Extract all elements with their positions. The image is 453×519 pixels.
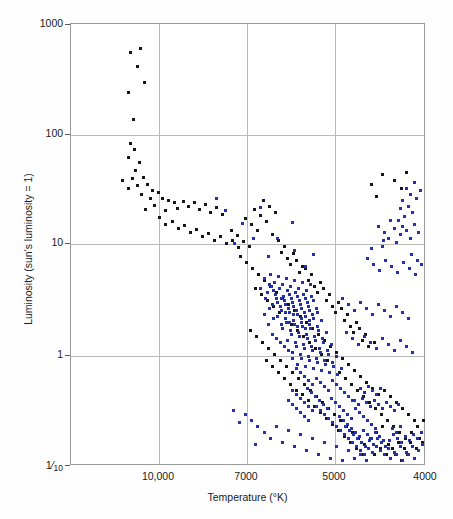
- data-point: [292, 319, 295, 322]
- data-point: [399, 207, 402, 210]
- data-point: [389, 315, 392, 318]
- data-point: [129, 51, 132, 54]
- data-point: [407, 317, 410, 320]
- data-point: [315, 377, 318, 380]
- data-point: [283, 299, 286, 302]
- data-point: [291, 357, 294, 360]
- data-point: [379, 449, 382, 452]
- y-tick-label: 1000: [0, 18, 66, 29]
- data-point: [167, 199, 170, 202]
- data-point: [298, 271, 301, 274]
- data-point: [368, 401, 371, 404]
- data-point: [379, 387, 382, 390]
- data-point: [402, 261, 405, 264]
- data-point: [286, 257, 289, 260]
- data-point: [396, 437, 399, 440]
- data-point: [407, 205, 410, 208]
- data-point: [343, 433, 346, 436]
- data-point: [415, 197, 418, 200]
- data-point: [291, 221, 294, 224]
- data-point: [308, 323, 311, 326]
- y-tick-label: 1⁄10: [0, 459, 66, 472]
- data-point: [398, 431, 401, 434]
- data-point: [291, 389, 294, 392]
- data-point: [313, 285, 316, 288]
- data-point: [127, 156, 130, 159]
- data-point: [380, 413, 383, 416]
- data-point: [399, 445, 402, 448]
- data-point: [225, 242, 228, 245]
- data-point: [353, 399, 356, 402]
- data-point: [421, 443, 424, 446]
- data-point: [409, 193, 412, 196]
- data-point: [221, 213, 224, 216]
- data-point: [365, 381, 368, 384]
- data-point: [346, 313, 349, 316]
- data-point: [315, 405, 318, 408]
- data-point: [304, 315, 307, 318]
- data-point: [387, 447, 390, 450]
- data-point: [312, 299, 315, 302]
- data-point: [316, 325, 319, 328]
- data-point: [275, 425, 278, 428]
- data-point: [408, 439, 411, 442]
- data-point: [287, 303, 290, 306]
- data-point: [307, 399, 310, 402]
- data-point: [296, 313, 299, 316]
- data-point: [335, 351, 338, 354]
- data-point: [366, 257, 369, 260]
- data-point: [276, 301, 279, 304]
- y-tick-mark: [65, 465, 70, 466]
- data-point: [257, 273, 260, 276]
- data-point: [395, 305, 398, 308]
- data-point: [414, 273, 417, 276]
- data-point: [307, 279, 310, 282]
- data-point: [339, 429, 342, 432]
- data-point: [303, 347, 306, 350]
- data-point: [244, 413, 247, 416]
- data-point: [131, 177, 134, 180]
- data-point: [377, 403, 380, 406]
- data-point: [121, 179, 124, 182]
- data-point: [265, 220, 268, 223]
- data-point: [365, 401, 368, 404]
- data-point: [340, 307, 343, 310]
- data-point: [281, 283, 284, 286]
- data-point: [383, 309, 386, 312]
- data-point: [408, 267, 411, 270]
- data-point: [330, 343, 333, 346]
- data-point: [310, 295, 313, 298]
- data-point: [242, 240, 245, 243]
- data-point: [271, 333, 274, 336]
- data-point: [268, 307, 271, 310]
- data-point: [277, 371, 280, 374]
- data-point: [295, 309, 298, 312]
- data-point: [358, 327, 361, 330]
- data-point: [326, 349, 329, 352]
- data-point: [273, 353, 276, 356]
- data-point: [304, 365, 307, 368]
- data-point: [290, 297, 293, 300]
- data-point: [303, 375, 306, 378]
- data-point: [404, 435, 407, 438]
- data-point: [157, 191, 160, 194]
- data-point: [347, 303, 350, 306]
- data-point: [279, 359, 282, 362]
- data-point: [363, 335, 366, 338]
- data-point: [314, 395, 317, 398]
- data-point: [290, 333, 293, 336]
- data-point: [347, 363, 350, 366]
- data-point: [305, 449, 308, 452]
- data-point: [362, 429, 365, 432]
- data-point: [288, 321, 291, 324]
- data-point: [307, 305, 310, 308]
- data-point: [324, 363, 327, 366]
- data-point: [262, 199, 265, 202]
- data-point: [373, 341, 376, 344]
- data-point: [341, 357, 344, 360]
- data-point: [322, 287, 325, 290]
- data-point: [401, 311, 404, 314]
- data-point: [267, 255, 270, 258]
- data-point: [280, 323, 283, 326]
- data-point: [294, 341, 297, 344]
